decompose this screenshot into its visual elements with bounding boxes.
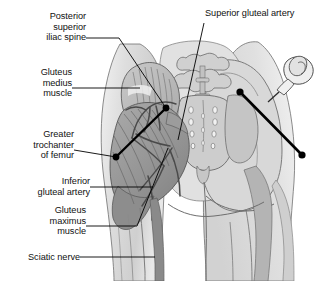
label-line-1: Superior gluteal artery bbox=[205, 8, 324, 19]
label-line-2: gluteal artery bbox=[0, 187, 90, 198]
label-line-1: Gluteus bbox=[0, 205, 86, 216]
label-gluteus-medius-muscle: Gluteus medius muscle bbox=[0, 67, 72, 99]
right-trochanter-marker-dot bbox=[298, 151, 305, 158]
label-line-2: maximus bbox=[0, 216, 86, 227]
label-line-1: Sciatic nerve bbox=[0, 252, 80, 263]
label-line-3: of femur bbox=[0, 150, 74, 161]
label-sciatic-nerve: Sciatic nerve bbox=[0, 252, 80, 263]
illustration-canvas: Posterior superior iliac spine Gluteus m… bbox=[0, 0, 324, 281]
label-gluteus-maximus-muscle: Gluteus maximus muscle bbox=[0, 205, 86, 237]
right-psis-marker-dot bbox=[236, 88, 243, 95]
label-superior-gluteal-artery: Superior gluteal artery bbox=[205, 8, 324, 19]
label-inferior-gluteal-artery: Inferior gluteal artery bbox=[0, 176, 90, 197]
label-line-1: Inferior bbox=[0, 176, 90, 187]
label-posterior-superior-iliac-spine: Posterior superior iliac spine bbox=[0, 11, 86, 43]
label-line-3: muscle bbox=[0, 226, 86, 237]
label-line-3: iliac spine bbox=[0, 32, 86, 43]
label-line-2: trochanter bbox=[0, 140, 74, 151]
label-line-2: superior bbox=[0, 22, 86, 33]
label-line-3: muscle bbox=[0, 88, 72, 99]
label-greater-trochanter-of-femur: Greater trochanter of femur bbox=[0, 129, 74, 161]
label-line-1: Gluteus bbox=[0, 67, 72, 78]
label-line-2: medius bbox=[0, 78, 72, 89]
label-line-1: Greater bbox=[0, 129, 74, 140]
label-line-1: Posterior bbox=[0, 11, 86, 22]
